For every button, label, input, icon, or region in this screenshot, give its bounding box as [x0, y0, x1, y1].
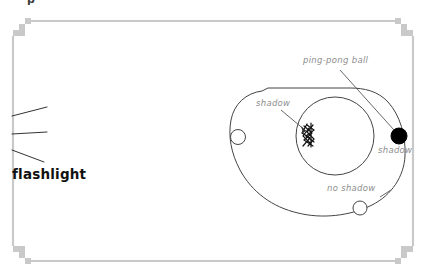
no-shadow-label: no shadow [327, 184, 376, 193]
ball-bottom-white [353, 201, 367, 215]
ping-pong-ball-label: ping-pong ball [303, 56, 368, 65]
diagram-canvas [0, 0, 427, 278]
ball-right-black [391, 128, 407, 144]
worksheet-diagram-screenshot: p [0, 0, 427, 278]
ray-middle-icon [12, 132, 47, 134]
shadow-label-left: shadow [256, 99, 290, 108]
shadow-label-right: shadow [378, 146, 412, 155]
ball-left-white [231, 130, 246, 145]
shadow-scribble-icon [302, 123, 314, 147]
ray-upper-icon [12, 107, 47, 116]
ray-lower-icon [12, 150, 44, 162]
flashlight-ray-group [12, 107, 47, 162]
annotation-leader-lines [281, 70, 394, 197]
flashlight-label: flashlight [12, 168, 86, 182]
